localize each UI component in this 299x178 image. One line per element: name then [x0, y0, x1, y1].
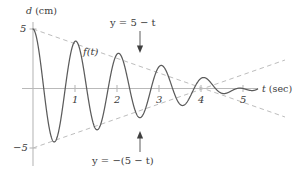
lower-envelope-pointer-arrow: [137, 131, 143, 152]
damped-oscillation-figure: d (cm) t (sec) 5 −5 1 2 3 4 5 f(t) y = 5…: [0, 0, 299, 178]
y-axis-title: d (cm): [26, 6, 57, 16]
upper-envelope-pointer-arrow: [137, 31, 143, 53]
x-axis-title: t (sec): [262, 84, 292, 94]
x-axis-title-unit: (sec): [269, 83, 292, 94]
x-tick-label-2: 2: [114, 95, 120, 105]
x-tick-label-5: 5: [240, 95, 246, 105]
function-curve-label: f(t): [83, 47, 99, 57]
upper-envelope-equation-label: y = 5 − t: [110, 18, 156, 28]
y-tick-label-minus5: −5: [13, 143, 28, 153]
x-axis-title-variable: t: [262, 83, 266, 94]
y-axis-title-variable: d: [26, 5, 32, 16]
damped-cosine-curve: [33, 29, 258, 142]
x-tick-label-4: 4: [198, 95, 204, 105]
y-tick-label-5: 5: [20, 24, 26, 34]
x-tick-label-1: 1: [72, 95, 78, 105]
y-axis-title-unit: (cm): [35, 5, 57, 16]
x-tick-label-3: 3: [156, 95, 162, 105]
lower-envelope-equation-label: y = −(5 − t): [92, 156, 154, 166]
